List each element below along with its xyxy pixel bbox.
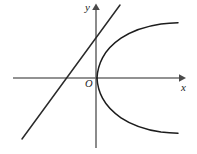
y-axis-arrow-icon [92, 4, 100, 11]
straight-line [22, 5, 120, 139]
math-figure: y x O [0, 0, 197, 154]
origin-label: O [85, 79, 93, 90]
straight-line-group [22, 5, 120, 139]
x-axis-label: x [181, 82, 186, 93]
parabola-upper-branch [97, 23, 178, 78]
axes-group [13, 4, 186, 149]
y-axis-label: y [85, 2, 90, 13]
coordinate-plot [0, 0, 197, 154]
parabola-lower-branch [97, 78, 178, 133]
